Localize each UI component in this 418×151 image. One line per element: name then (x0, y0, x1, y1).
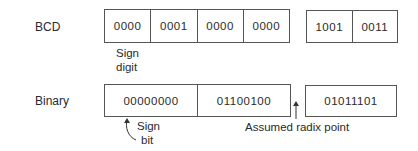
binary-byte-group-fraction: 01011101 (305, 85, 397, 117)
binary-byte-group-main: 00000000 01100100 (104, 84, 291, 117)
bcd-digit-cell: 0011 (353, 11, 398, 42)
bcd-digit-cell: 0000 (198, 10, 244, 42)
sign-digit-note-line1: Sign (116, 46, 139, 60)
sign-digit-note-line2: digit (116, 60, 139, 74)
radix-point-note: Assumed radix point (245, 120, 349, 134)
bcd-digit-group-tail: 1001 0011 (306, 10, 398, 43)
sign-bit-note-line2: bit (137, 133, 160, 147)
bcd-digit-cell: 0000 (244, 10, 289, 42)
sign-digit-note: Sign digit (116, 46, 139, 74)
sign-bit-note: Sign bit (137, 119, 160, 147)
bcd-digit-cell: 1001 (307, 11, 353, 42)
binary-byte-cell: 01011101 (306, 86, 396, 116)
bcd-digit-cell: 0000 (105, 10, 151, 42)
binary-row-label: Binary (35, 94, 69, 108)
bcd-digit-cell: 0001 (151, 10, 197, 42)
bcd-digit-group-main: 0000 0001 0000 0000 (104, 9, 290, 43)
radix-point-arrow-icon (290, 100, 302, 120)
binary-byte-cell: 01100100 (198, 85, 290, 116)
bcd-row-label: BCD (35, 20, 60, 34)
binary-byte-cell: 00000000 (105, 85, 198, 116)
sign-bit-note-line1: Sign (137, 119, 160, 133)
